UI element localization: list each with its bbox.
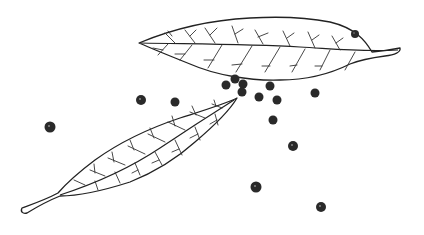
peppercorn <box>251 182 262 193</box>
upper-leaf <box>139 17 400 80</box>
peppercorn <box>255 93 264 102</box>
illustration-canvas: Bay leaves and black peppercorns line dr… <box>0 0 424 235</box>
peppercorn <box>222 81 231 90</box>
peppercorn <box>171 98 180 107</box>
bay-leaves-peppercorns-drawing <box>0 0 424 235</box>
peppercorn <box>239 80 248 89</box>
peppercorn <box>266 82 275 91</box>
lower-leaf <box>21 98 237 213</box>
peppercorn <box>45 122 56 133</box>
peppercorn <box>269 116 278 125</box>
peppercorn <box>273 96 282 105</box>
peppercorn <box>136 95 146 105</box>
peppercorn <box>231 75 240 84</box>
peppercorn <box>238 88 247 97</box>
peppercorn <box>311 89 320 98</box>
peppercorn <box>351 30 359 38</box>
peppercorn <box>316 202 326 212</box>
peppercorn <box>288 141 298 151</box>
